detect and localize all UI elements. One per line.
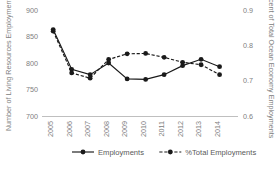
data-point [125,51,130,56]
x-tick-label: 2010 [139,121,148,137]
x-tick-label: 2008 [102,121,111,137]
y-tick-label: 900 [26,6,38,15]
y-tick-label: 800 [26,59,38,68]
y2-tick-label: 0.6 [243,112,253,121]
y-axis-title: Number of Living Resources Employments [4,0,13,131]
data-point [180,60,185,65]
data-point [199,62,204,67]
y-axis-tick-labels: 700750800850900 [26,6,38,121]
y-tick-label: 700 [26,112,38,121]
x-tick-label: 2012 [176,121,185,137]
legend-label-1: Employments [98,148,144,157]
y-tick-label: 850 [26,32,38,41]
legend-label-2: %Total Employments [185,148,256,157]
chart-legend: Employments%Total Employments [72,148,256,157]
x-tick-label: 2007 [83,121,92,137]
y2-axis-tick-labels: 0.60.70.80.9 [243,6,253,121]
y2-tick-label: 0.9 [243,6,253,15]
x-tick-label: 2014 [213,121,222,137]
x-tick-label: 2006 [65,121,74,137]
data-point [88,76,93,81]
y2-tick-label: 0.8 [243,41,253,50]
legend-marker-1 [81,150,86,155]
data-point [51,29,56,34]
data-point [199,57,204,62]
data-point [106,57,111,62]
x-tick-label: 2009 [120,121,129,137]
plot-area [42,10,238,116]
x-tick-label: 2005 [46,121,55,137]
data-point [162,72,167,77]
data-point [217,64,222,69]
line-chart: 700750800850900 0.60.70.80.9 20052006200… [0,0,277,172]
data-point [143,77,148,82]
y2-tick-label: 0.7 [243,76,253,85]
x-tick-label: 2011 [157,121,166,136]
data-point [69,70,74,75]
data-point [125,77,130,82]
x-axis-tick-labels: 2005200620072008200920102011201220132014 [46,121,221,137]
data-point [162,55,167,60]
data-point [143,51,148,56]
legend-marker-2 [168,150,173,155]
data-point [217,72,222,77]
y-tick-label: 750 [26,85,38,94]
x-tick-label: 2013 [194,121,203,137]
y2-axis-title: Percent of Total Ocean Economy Employmen… [267,0,276,139]
chart-container: 700750800850900 0.60.70.80.9 20052006200… [0,0,277,172]
